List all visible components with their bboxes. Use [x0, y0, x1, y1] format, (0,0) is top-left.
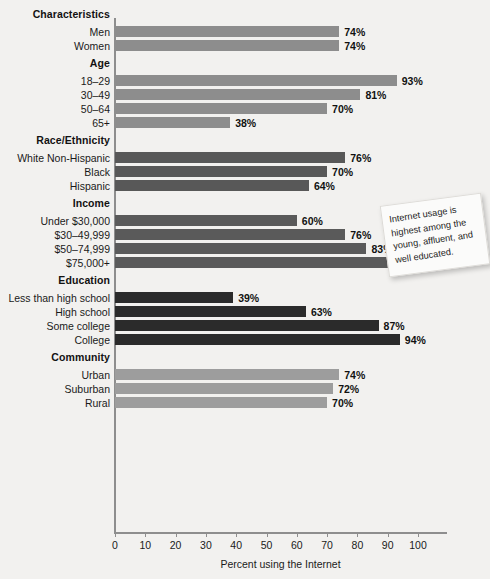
- x-tick: [145, 532, 146, 537]
- bar: [115, 166, 327, 177]
- bar: [115, 243, 366, 254]
- group-header-education: Education: [0, 274, 110, 286]
- row-label: Men: [0, 26, 110, 38]
- bar-value-label: 63%: [311, 306, 332, 318]
- bar-value-label: 76%: [350, 229, 371, 241]
- bar: [115, 215, 297, 226]
- x-axis-line: [114, 532, 447, 534]
- group-header-community: Community: [0, 351, 110, 363]
- x-axis-title: Percent using the Internet: [114, 558, 447, 570]
- bar-value-label: 64%: [314, 180, 335, 192]
- bar: [115, 117, 230, 128]
- row-label: Black: [0, 166, 110, 178]
- bar: [115, 89, 360, 100]
- row-label: 30–49: [0, 89, 110, 101]
- row-label: Women: [0, 40, 110, 52]
- row-label: White Non-Hispanic: [0, 152, 110, 164]
- bar: [115, 75, 397, 86]
- x-tick-label: 100: [398, 539, 438, 551]
- group-header-race-ethnicity: Race/Ethnicity: [0, 134, 110, 146]
- x-tick: [176, 532, 177, 537]
- bar: [115, 292, 233, 303]
- bar: [115, 40, 339, 51]
- row-label: Less than high school: [0, 292, 110, 304]
- row-label: 18–29: [0, 75, 110, 87]
- bar: [115, 369, 339, 380]
- x-tick: [388, 532, 389, 537]
- x-tick: [267, 532, 268, 537]
- x-tick: [115, 532, 116, 537]
- row-label: $75,000+: [0, 257, 110, 269]
- row-label: College: [0, 334, 110, 346]
- bar: [115, 152, 345, 163]
- x-tick: [297, 532, 298, 537]
- row-label: Urban: [0, 369, 110, 381]
- bar-value-label: 70%: [332, 166, 353, 178]
- bar: [115, 383, 333, 394]
- row-label: Under $30,000: [0, 215, 110, 227]
- bar-value-label: 38%: [235, 117, 256, 129]
- row-label: Some college: [0, 320, 110, 332]
- bar: [115, 306, 306, 317]
- bar-value-label: 76%: [350, 152, 371, 164]
- bar-value-label: 74%: [344, 40, 365, 52]
- bar-value-label: 72%: [338, 383, 359, 395]
- bar: [115, 180, 309, 191]
- bar: [115, 320, 379, 331]
- bar-value-label: 70%: [332, 397, 353, 409]
- bar-value-label: 87%: [384, 320, 405, 332]
- group-header-characteristics: Characteristics: [0, 8, 110, 20]
- row-label: 65+: [0, 117, 110, 129]
- bar: [115, 397, 327, 408]
- row-label: Suburban: [0, 383, 110, 395]
- row-label: $30–49,999: [0, 229, 110, 241]
- bar: [115, 334, 400, 345]
- x-tick: [357, 532, 358, 537]
- bar-value-label: 39%: [238, 292, 259, 304]
- bar-value-label: 94%: [405, 334, 426, 346]
- group-header-income: Income: [0, 197, 110, 209]
- x-tick: [327, 532, 328, 537]
- bar-value-label: 93%: [402, 75, 423, 87]
- bar-value-label: 74%: [344, 26, 365, 38]
- bar-value-label: 60%: [302, 215, 323, 227]
- bar: [115, 103, 327, 114]
- row-label: $50–74,999: [0, 243, 110, 255]
- x-tick: [236, 532, 237, 537]
- group-header-age: Age: [0, 57, 110, 69]
- row-label: Hispanic: [0, 180, 110, 192]
- annotation-callout: Internet usage is highest among the youn…: [380, 193, 490, 278]
- annotation-text: Internet usage is highest among the youn…: [388, 201, 482, 267]
- x-tick: [418, 532, 419, 537]
- x-tick: [206, 532, 207, 537]
- row-label: High school: [0, 306, 110, 318]
- bar: [115, 229, 345, 240]
- bar-value-label: 70%: [332, 103, 353, 115]
- bar-value-label: 81%: [365, 89, 386, 101]
- bar: [115, 257, 400, 268]
- row-label: 50–64: [0, 103, 110, 115]
- bar-value-label: 74%: [344, 369, 365, 381]
- row-label: Rural: [0, 397, 110, 409]
- bar: [115, 26, 339, 37]
